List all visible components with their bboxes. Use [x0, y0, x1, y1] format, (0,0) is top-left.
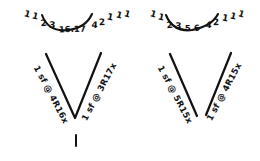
number-token: 1	[23, 9, 32, 19]
number-token: 1	[221, 13, 229, 23]
number-token: 1	[229, 11, 237, 21]
number-token: 1	[107, 12, 115, 22]
right-group-arc	[165, 14, 219, 32]
number-token: 1	[115, 10, 123, 20]
number-token: 1	[237, 9, 246, 19]
number-token: 1	[149, 9, 158, 19]
left-group-arc	[41, 14, 93, 32]
handwritten-sketch-canvas: 1 1 2 3 16.17 4 2 1 1 1 1 sf @ 4R16x 1 s…	[0, 0, 260, 161]
number-token: 1	[31, 11, 39, 21]
number-token: 2	[99, 18, 106, 27]
number-token: 1	[123, 9, 132, 19]
left-group-vertex-tick	[75, 134, 77, 147]
